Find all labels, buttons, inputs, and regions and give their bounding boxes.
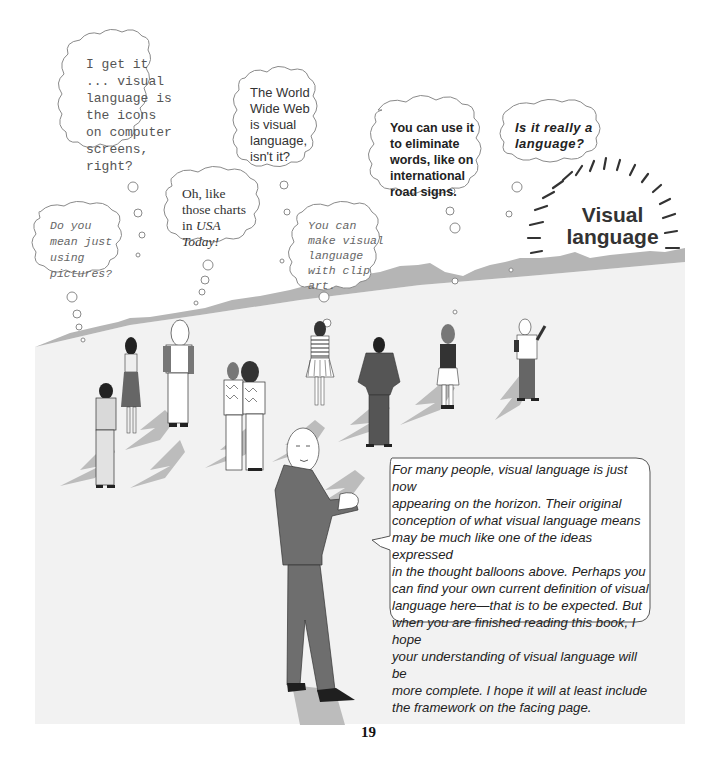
text-line: your understanding of visual language wi… [392,648,652,682]
illustration-page: Visual language [0,0,701,762]
text-line: may be much like one of the ideas expres… [392,529,652,563]
text-line: appearing on the horizon. Their original [392,495,652,512]
text-line: conception of what visual language means [392,512,652,529]
text-line: can find your own current definition of … [392,580,652,597]
text-line: when you are finished reading this book,… [392,614,652,648]
speech-balloon-text: For many people, visual language is just… [392,461,652,716]
text-line: in the thought balloons above. Perhaps y… [392,563,652,580]
page-number: 19 [361,724,376,741]
text-line: the framework on the facing page. [392,699,652,716]
text-line: language here—that is to be expected. Bu… [392,597,652,614]
text-line: more complete. I hope it will at least i… [392,682,652,699]
text-line: For many people, visual language is just… [392,461,652,495]
